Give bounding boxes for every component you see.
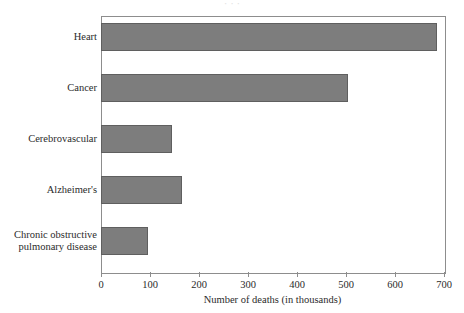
y-axis-label: Cancer (0, 82, 97, 94)
x-tick-label: 200 (191, 278, 207, 291)
x-axis-tick-labels: 0100200300400500600700 (0, 278, 464, 292)
x-tick-mark (150, 272, 151, 277)
cropped-title-sliver: · · · (0, 0, 464, 6)
bars-layer (101, 16, 444, 272)
x-tick-mark (101, 272, 102, 277)
x-tick-label: 300 (240, 278, 256, 291)
x-tick-mark (346, 272, 347, 277)
x-tick-label: 100 (142, 278, 158, 291)
y-axis-label: Cerebrovascular (0, 133, 97, 145)
x-tick-label: 0 (98, 278, 103, 291)
y-axis-label: Chronic obstructive pulmonary disease (0, 229, 97, 253)
y-axis-label: Alzheimer's (0, 184, 97, 196)
x-tick-label: 400 (289, 278, 305, 291)
x-axis-title: Number of deaths (in thousands) (101, 293, 444, 306)
y-axis-category-labels: HeartCancerCerebrovascularAlzheimer'sChr… (0, 16, 97, 272)
x-tick-mark (395, 272, 396, 277)
x-tick-mark (248, 272, 249, 277)
bar (101, 125, 172, 153)
y-axis-label: Heart (0, 31, 97, 43)
bar-chart: · · · HeartCancerCerebrovascularAlzheime… (0, 0, 464, 313)
x-tick-mark (297, 272, 298, 277)
bar (101, 227, 148, 255)
x-tick-mark (444, 272, 445, 277)
x-tick-label: 700 (436, 278, 452, 291)
bar (101, 74, 348, 102)
x-tick-label: 600 (387, 278, 403, 291)
bar (101, 23, 437, 51)
x-tick-mark (199, 272, 200, 277)
x-tick-label: 500 (338, 278, 354, 291)
bar (101, 176, 182, 204)
